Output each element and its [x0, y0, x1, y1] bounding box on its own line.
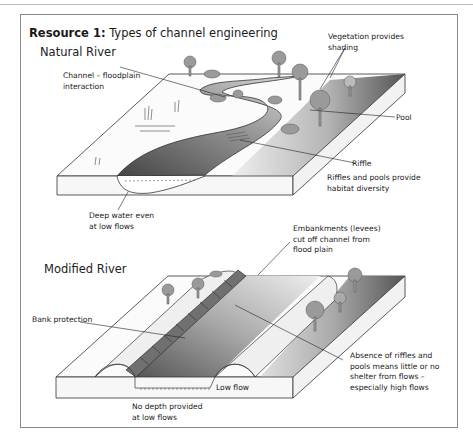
label-riffle: Riffle	[352, 159, 371, 170]
label-channel-floodplain: Channel – floodplain interaction	[63, 71, 140, 92]
label-bank-protection: Bank protection	[32, 315, 92, 326]
label-riffles-pools: Riffles and pools provide habitat divers…	[327, 173, 421, 194]
label-no-depth: No depth provided at low flows	[132, 402, 203, 423]
label-vegetation-shading: Vegetation provides shading	[328, 32, 404, 53]
label-low-flow: Low flow	[216, 383, 249, 394]
label-embankments: Embankments (levees) cut off channel fro…	[293, 224, 381, 256]
label-pool: Pool	[396, 113, 412, 124]
modified-river-heading: Modified River	[44, 262, 127, 276]
label-deep-water: Deep water even at low flows	[89, 211, 154, 232]
label-absence-riffles: Absence of riffles and pools means littl…	[350, 351, 440, 393]
natural-river-heading: Natural River	[40, 45, 116, 59]
